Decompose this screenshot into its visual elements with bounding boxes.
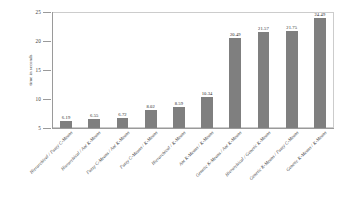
bar-group: 6.55 <box>88 12 100 128</box>
bar-value-label: 21.75 <box>286 25 297 30</box>
bar-value-label: 6.19 <box>62 115 70 120</box>
bar <box>286 31 298 128</box>
bar-value-label: 8.02 <box>146 104 154 109</box>
bar-group: 20.49 <box>229 12 241 128</box>
bar-group: 8.02 <box>145 12 157 128</box>
x-tick-label: Genetic K-Means / Fuzzy C-Means <box>248 130 299 181</box>
y-tick: 15 <box>43 70 51 71</box>
y-tick-label: 20 <box>36 38 41 44</box>
y-tick: 20 <box>43 41 51 42</box>
bar <box>60 121 72 128</box>
bar-value-label: 6.72 <box>118 112 126 117</box>
y-tick-label: 25 <box>36 9 41 15</box>
y-tick-label: 10 <box>36 96 41 102</box>
bar-group: 21.75 <box>286 12 298 128</box>
bar-group: 21.57 <box>258 12 270 128</box>
bar-group: 6.19 <box>60 12 72 128</box>
bar-value-label: 20.49 <box>230 32 241 37</box>
x-axis <box>52 128 334 129</box>
y-tick: 5 <box>43 128 51 129</box>
y-axis-title: time in seconds <box>28 54 33 85</box>
bar-value-label: 24.49 <box>314 12 325 17</box>
bar <box>117 118 129 128</box>
y-tick-label: 5 <box>38 125 41 131</box>
bar-group: 6.72 <box>117 12 129 128</box>
bar <box>145 110 157 128</box>
bar-group: 10.34 <box>201 12 213 128</box>
bar <box>88 119 100 128</box>
bar-group: 24.49 <box>314 12 326 128</box>
bar <box>201 97 213 128</box>
bar-value-label: 8.59 <box>175 101 183 106</box>
y-tick: 10 <box>43 99 51 100</box>
bar-value-label: 21.57 <box>258 26 269 31</box>
bar <box>173 107 185 128</box>
bar <box>314 18 326 128</box>
bars-layer: 6.196.556.728.028.5910.3420.4921.5721.75… <box>52 12 334 128</box>
x-tick-labels: Hierarchical / Fuzzy C-MeansHierarchical… <box>52 130 334 218</box>
bar <box>258 32 270 128</box>
bar-group: 8.59 <box>173 12 185 128</box>
y-tick: 25 <box>43 12 51 13</box>
y-tick-label: 15 <box>36 67 41 73</box>
bar-value-label: 6.55 <box>90 113 98 118</box>
bar-chart: time in seconds 510152025 6.196.556.728.… <box>0 0 340 219</box>
bar-value-label: 10.34 <box>202 91 213 96</box>
bar <box>229 38 241 128</box>
